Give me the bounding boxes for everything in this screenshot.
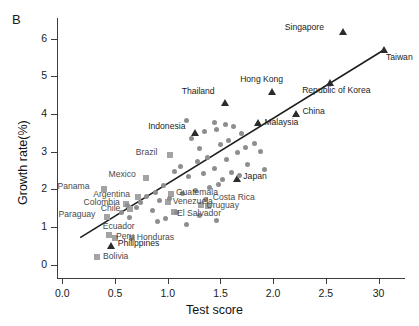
- data-point-unlabeled-1: [202, 129, 207, 134]
- data-point-unlabeled-47: [214, 218, 219, 223]
- data-point-unlabeled-12: [252, 141, 257, 146]
- data-point-unlabeled-6: [223, 122, 228, 127]
- data-point-unlabeled-43: [220, 177, 225, 182]
- y-tick-1: [51, 227, 57, 228]
- data-point-unlabeled-33: [157, 198, 162, 203]
- data-point-hong-kong: [268, 88, 276, 95]
- point-label-chile: Chile: [101, 203, 121, 213]
- point-label-hong-kong: Hong Kong: [240, 74, 283, 84]
- data-point-unlabeled-20: [224, 157, 229, 162]
- data-point-unlabeled-44: [237, 173, 242, 178]
- x-tick-label-0.0: 0.0: [42, 287, 82, 299]
- data-point-unlabeled-26: [216, 182, 221, 187]
- point-label-indonesia: Indonesia: [148, 121, 185, 131]
- data-point-unlabeled-19: [212, 166, 217, 171]
- y-tick-0: [51, 265, 57, 266]
- point-label-thailand: Thailand: [182, 86, 215, 96]
- x-tick-label-30: 30: [359, 287, 399, 299]
- y-tick-label-5: 5: [33, 69, 47, 81]
- data-point-unlabeled-14: [218, 142, 223, 147]
- data-point-unlabeled-3: [197, 146, 202, 151]
- y-axis-title: Growth rate(%): [16, 120, 30, 205]
- data-point-unlabeled-34: [144, 194, 149, 199]
- data-point-unlabeled-31: [153, 190, 158, 195]
- x-axis-title: Test score: [186, 303, 243, 317]
- data-point-singapore: [339, 28, 347, 35]
- data-point-unlabeled-32: [167, 196, 172, 201]
- point-label-japan: Japan: [243, 171, 266, 181]
- x-tick-1.0: [168, 278, 169, 284]
- y-tick-label-1: 1: [33, 220, 47, 232]
- point-label-honduras: Honduras: [137, 232, 174, 242]
- y-axis-line: [57, 18, 58, 279]
- x-tick-2.0: [273, 278, 274, 284]
- y-tick-2: [51, 189, 57, 190]
- x-tick-label-1.5: 1.5: [200, 287, 240, 299]
- data-point-brazil: [167, 152, 173, 158]
- data-point-unlabeled-46: [184, 222, 189, 227]
- x-tick-0.5: [115, 278, 116, 284]
- y-tick-6: [51, 39, 57, 40]
- point-label-brazil: Brazil: [136, 147, 158, 157]
- point-label-ecuador: Ecuador: [103, 221, 135, 231]
- y-tick-5: [51, 76, 57, 77]
- y-tick-label-4: 4: [33, 107, 47, 119]
- x-axis-line: [57, 278, 405, 279]
- data-point-unlabeled-30: [161, 183, 166, 188]
- y-tick-3: [51, 152, 57, 153]
- point-label-el-salvador: El Salvador: [177, 208, 221, 218]
- data-point-unlabeled-35: [138, 200, 143, 205]
- x-tick-0.0: [62, 278, 63, 284]
- data-point-malaysia: [254, 119, 262, 126]
- data-point-unlabeled-15: [205, 155, 210, 160]
- point-label-panama: Panama: [57, 181, 89, 191]
- data-point-thailand: [221, 99, 229, 106]
- data-point-unlabeled-17: [178, 164, 183, 169]
- x-tick-label-1.0: 1.0: [148, 287, 188, 299]
- data-point-unlabeled-23: [229, 170, 234, 175]
- x-tick-label-2.0: 2.0: [253, 287, 293, 299]
- scatter-chart: B 01234560.00.51.01.52.02.530 SingaporeT…: [0, 0, 419, 326]
- data-point-mexico: [143, 175, 149, 181]
- data-point-unlabeled-4: [212, 120, 217, 125]
- data-point-unlabeled-7: [231, 124, 236, 129]
- data-point-unlabeled-37: [150, 208, 155, 213]
- data-point-unlabeled-24: [245, 162, 250, 167]
- point-label-costa-rica: Costa Rica: [213, 192, 255, 202]
- point-label-malaysia: Malaysia: [264, 117, 298, 127]
- x-tick-label-2.5: 2.5: [306, 287, 346, 299]
- point-label-peru: Peru: [116, 231, 134, 241]
- data-point-unlabeled-36: [134, 205, 139, 210]
- point-label-mexico: Mexico: [109, 169, 136, 179]
- data-point-unlabeled-18: [172, 169, 177, 174]
- x-tick-30: [379, 278, 380, 284]
- data-point-unlabeled-49: [155, 219, 160, 224]
- data-point-unlabeled-40: [125, 203, 130, 208]
- y-tick-label-6: 6: [33, 32, 47, 44]
- data-point-ecuador: [106, 232, 112, 238]
- data-point-unlabeled-2: [189, 136, 194, 141]
- data-point-unlabeled-10: [243, 145, 248, 150]
- data-point-unlabeled-11: [235, 150, 240, 155]
- panel-label: B: [12, 12, 21, 27]
- point-label-china: China: [302, 106, 324, 116]
- data-point-unlabeled-16: [195, 159, 200, 164]
- point-label-paraguay: Paraguay: [59, 209, 96, 219]
- data-point-unlabeled-42: [127, 215, 132, 220]
- data-point-indonesia: [191, 129, 199, 136]
- data-point-unlabeled-48: [163, 216, 168, 221]
- x-tick-label-0.5: 0.5: [95, 287, 135, 299]
- data-point-unlabeled-21: [201, 171, 206, 176]
- point-label-taiwan: Taiwan: [386, 52, 413, 62]
- data-point-bolivia: [94, 254, 100, 260]
- data-point-paraguay: [104, 214, 110, 220]
- point-label-bolivia: Bolivia: [103, 251, 128, 261]
- data-point-unlabeled-13: [258, 149, 263, 154]
- x-tick-2.5: [326, 278, 327, 284]
- x-tick-1.5: [220, 278, 221, 284]
- point-label-singapore: Singapore: [285, 22, 324, 32]
- y-tick-4: [51, 114, 57, 115]
- y-tick-label-2: 2: [33, 182, 47, 194]
- data-point-philippines: [107, 242, 115, 249]
- data-point-unlabeled-22: [186, 174, 191, 179]
